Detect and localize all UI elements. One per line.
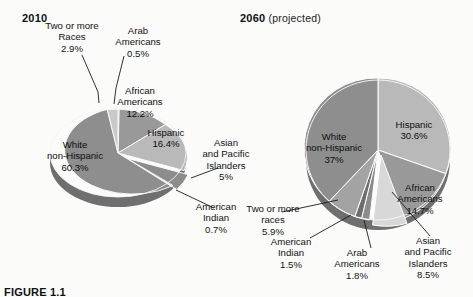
- leader-2060-american-indian: [310, 215, 351, 238]
- figure-caption: FIGURE 1.1: [4, 286, 66, 297]
- figure-canvas: 2010 T: [0, 0, 473, 297]
- label-2060-arab-americans: Arab Americans 1.8%: [322, 247, 392, 281]
- label-2010-hispanic: Hispanic 16.4%: [137, 127, 195, 150]
- label-2010-white-non-hispanic: White non-Hispanic 60.3%: [34, 139, 116, 173]
- label-2060-african-americans: African Americans 14.7%: [386, 182, 454, 216]
- label-2010-two-or-more-races: Two or more Races 2.9%: [31, 20, 113, 54]
- label-2010-arab-americans: Arab Americans 0.5%: [107, 25, 169, 59]
- label-2060-hispanic: Hispanic 30.6%: [383, 119, 445, 142]
- label-2060-american-indian: American Indian 1.5%: [258, 236, 324, 270]
- label-2060-white-non-hispanic: White non-Hispanic 37%: [293, 131, 375, 165]
- label-2060-two-or-more-races: Two or more races 5.9%: [234, 203, 312, 237]
- label-2010-african-americans: African Americans 12.2%: [108, 85, 172, 119]
- leader-2010-two-or-more: [82, 55, 99, 103]
- label-2060-asian-pacific-islanders: Asian and Pacific Islanders 8.5%: [392, 235, 464, 281]
